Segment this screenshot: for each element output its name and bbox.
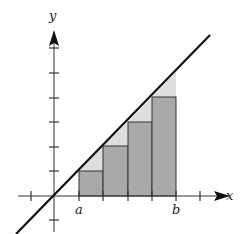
rectangle-4 [152, 97, 176, 196]
y-axis-label: y [48, 8, 57, 23]
x-axis-label: x [226, 188, 234, 203]
rectangle-1 [79, 171, 103, 196]
function-line [16, 35, 210, 234]
riemann-sum-diagram: y x a b [0, 0, 243, 234]
interval-start-label: a [75, 202, 83, 217]
rectangle-2 [103, 146, 128, 196]
interval-end-label: b [172, 202, 180, 217]
riemann-rectangles [79, 97, 176, 196]
rectangle-3 [128, 122, 152, 196]
